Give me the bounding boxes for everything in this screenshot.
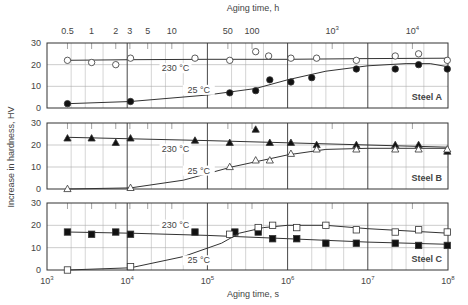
bottom-seconds-axis: 103104105106107108 (40, 275, 455, 286)
data-point (415, 242, 421, 248)
data-point (288, 79, 294, 85)
data-point (353, 227, 359, 233)
hardness-aging-chart: 0.512351050100103104 0102030230 °C25 °CS… (0, 0, 468, 305)
data-point (269, 236, 275, 242)
data-point (64, 57, 70, 63)
panel-name: Steel B (411, 173, 442, 183)
top-tick-label: 50 (223, 26, 233, 36)
bottom-tick-label: 105 (201, 275, 215, 286)
data-point (226, 139, 233, 145)
data-point (444, 57, 450, 63)
data-point (88, 59, 94, 65)
data-point (323, 222, 329, 228)
series-label: 25 °C (187, 85, 210, 95)
data-point (287, 139, 294, 145)
y-axis-label: Increase in hardness, HV (6, 106, 16, 207)
data-point (267, 77, 273, 83)
series-label: 230 °C (162, 144, 190, 154)
top-tick-label: 2 (113, 26, 118, 36)
data-point (392, 66, 398, 72)
data-point (64, 267, 70, 273)
data-point (415, 51, 421, 57)
bottom-tick-label: 104 (121, 275, 135, 286)
data-point (64, 229, 70, 235)
data-point (294, 236, 300, 242)
data-point (415, 227, 421, 233)
data-point (227, 231, 233, 237)
data-point (64, 100, 70, 106)
y-tick-label: 20 (31, 220, 41, 230)
data-point (444, 229, 450, 235)
panel-steel-c: 0102030230 °C25 °CSteel C (31, 198, 451, 275)
series-label: 25 °C (187, 166, 210, 176)
x-axis-label: Aging time, s (227, 289, 280, 299)
top-x-axis-label: Aging time, h (227, 3, 280, 13)
data-point (127, 135, 134, 141)
data-point (415, 61, 421, 67)
top-tick-label: 1 (89, 26, 94, 36)
data-point (88, 231, 94, 237)
y-tick-label: 0 (36, 103, 41, 113)
y-tick-label: 30 (31, 118, 41, 128)
y-tick-label: 0 (36, 184, 41, 194)
top-tick-label: 3 (127, 26, 132, 36)
data-point (192, 229, 198, 235)
data-point (313, 55, 319, 61)
data-point (353, 66, 359, 72)
curve (68, 58, 449, 60)
panel-steel-b: 0102030230 °C25 °CSteel B (31, 118, 451, 194)
top-tick-label: 104 (406, 25, 420, 36)
data-point (265, 53, 271, 59)
data-point (113, 229, 119, 235)
data-point (227, 90, 233, 96)
top-tick-label: 5 (145, 26, 150, 36)
data-point (113, 61, 119, 67)
data-point (252, 87, 258, 93)
y-tick-label: 10 (31, 243, 41, 253)
series-label: 230 °C (162, 220, 190, 230)
curve (68, 64, 449, 104)
y-tick-label: 10 (31, 81, 41, 91)
bottom-tick-label: 108 (441, 275, 455, 286)
bottom-tick-label: 107 (361, 275, 375, 286)
y-tick-label: 30 (31, 38, 41, 48)
data-point (112, 139, 119, 145)
bottom-tick-label: 106 (281, 275, 295, 286)
top-tick-label: 103 (326, 25, 340, 36)
data-point (287, 150, 294, 156)
bottom-tick-label: 103 (40, 275, 54, 286)
series-label: 230 °C (162, 63, 190, 73)
data-point (323, 240, 329, 246)
data-point (269, 222, 275, 228)
data-point (392, 229, 398, 235)
data-point (252, 48, 258, 54)
data-point (64, 185, 71, 191)
top-tick-label: 0.5 (61, 26, 74, 36)
y-tick-label: 20 (31, 60, 41, 70)
data-point (392, 240, 398, 246)
data-point (294, 224, 300, 230)
panel-name: Steel A (412, 92, 443, 102)
data-point (255, 224, 261, 230)
data-point (127, 231, 133, 237)
data-point (444, 242, 450, 248)
top-tick-label: 10 (167, 26, 177, 36)
panel-name: Steel C (411, 254, 442, 264)
data-point (252, 157, 259, 163)
data-point (266, 157, 273, 163)
panels: 0102030230 °C25 °CSteel A0102030230 °C25… (31, 38, 451, 275)
y-tick-label: 10 (31, 162, 41, 172)
top-tick-label: 100 (244, 26, 259, 36)
curve (68, 137, 449, 147)
data-point (127, 98, 133, 104)
y-tick-label: 0 (36, 265, 41, 275)
y-tick-label: 20 (31, 140, 41, 150)
data-point (227, 57, 233, 63)
data-point (127, 263, 133, 269)
data-point (309, 74, 315, 80)
data-point (353, 57, 359, 63)
data-point (252, 126, 259, 132)
series-label: 25 °C (187, 255, 210, 265)
panel-steel-a: 0102030230 °C25 °CSteel A (31, 38, 451, 113)
data-point (192, 55, 198, 61)
